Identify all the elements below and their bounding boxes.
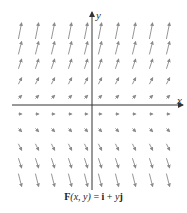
vector-arrow [18,144,21,150]
vector-arrow [18,158,21,168]
vector-arrow [132,174,135,187]
vector-arrow [35,78,38,84]
vector-arrow [149,144,152,150]
vector-arrow [132,78,135,84]
vector-arrow [132,95,135,98]
vector-arrow [149,42,152,55]
figure-caption: F(x, y) = i + yj [0,191,187,202]
vector-arrow [51,95,54,98]
vector-arrow [84,95,87,98]
vector-arrow [68,59,71,69]
vector-arrow [18,78,21,84]
vector-arrow [68,23,71,39]
vector-arrow [84,59,87,69]
vector-arrow [51,128,54,131]
vector-arrow [51,42,54,55]
vector-arrow [68,158,71,168]
vector-arrow [84,128,87,131]
vector-arrow [166,174,169,187]
vector-arrow [68,174,71,187]
vector-arrow [68,42,71,55]
vector-arrow [68,128,71,131]
vector-arrow [98,174,101,187]
y-axis-label: y [96,9,101,21]
vector-arrow [18,23,21,39]
vector-arrow [132,128,135,131]
vector-arrow [149,95,152,98]
vector-arrow [35,42,38,55]
vector-arrow [51,23,54,39]
vector-arrow [18,174,21,187]
vector-arrow [132,144,135,150]
vector-arrow [84,158,87,168]
vector-arrow [98,59,101,69]
vector-arrow [149,78,152,84]
vector-arrow [68,95,71,98]
vector-arrow [149,128,152,131]
vector-arrow [115,78,118,84]
vector-field-plot [0,0,187,213]
vector-arrow [18,128,21,131]
vector-arrow [115,23,118,39]
vector-arrow [51,78,54,84]
vector-arrow [149,59,152,69]
vector-arrow [35,95,38,98]
vector-arrow [132,42,135,55]
vector-arrow [115,95,118,98]
vector-arrow [84,144,87,150]
vector-arrow [35,144,38,150]
vector-arrow [51,144,54,150]
vector-arrow [84,174,87,187]
vector-arrow [98,158,101,168]
vector-arrow [18,59,21,69]
vector-arrow [84,78,87,84]
vector-arrow [132,59,135,69]
vector-arrow [132,23,135,39]
vector-arrow [149,23,152,39]
vector-arrow [166,158,169,168]
vector-arrow [35,128,38,131]
vector-arrow [115,42,118,55]
vector-arrow [115,174,118,187]
vector-arrow [166,128,169,131]
vector-arrow [35,174,38,187]
vector-arrow [166,144,169,150]
vector-arrow [98,42,101,55]
vector-arrow [149,158,152,168]
vector-arrow [98,128,101,131]
vector-arrow [115,158,118,168]
vector-arrow [51,174,54,187]
vector-arrow [68,144,71,150]
vector-arrow [166,42,169,55]
vector-arrow [35,59,38,69]
vector-arrow [166,95,169,98]
vector-arrow [115,144,118,150]
caption-plus: + [104,191,115,202]
vector-arrow [166,23,169,39]
vector-arrow [98,95,101,98]
vector-arrow [18,95,21,98]
vector-arrow [35,158,38,168]
vector-arrow [18,42,21,55]
caption-j: j [119,191,122,202]
vector-arrow [149,174,152,187]
vector-arrow [166,78,169,84]
vector-arrow [84,42,87,55]
vector-arrow [132,158,135,168]
vector-arrow [35,23,38,39]
vector-arrow [98,144,101,150]
caption-eq: = [91,191,102,202]
vector-arrow [166,59,169,69]
x-axis-label: x [177,94,182,106]
vector-arrow [115,128,118,131]
vector-arrow [98,78,101,84]
vector-arrow [98,23,101,39]
caption-args: (x, y) [70,191,91,202]
vector-arrow [51,158,54,168]
vector-arrow [51,59,54,69]
vector-arrow [68,78,71,84]
vector-arrow [84,23,87,39]
vector-arrow [115,59,118,69]
